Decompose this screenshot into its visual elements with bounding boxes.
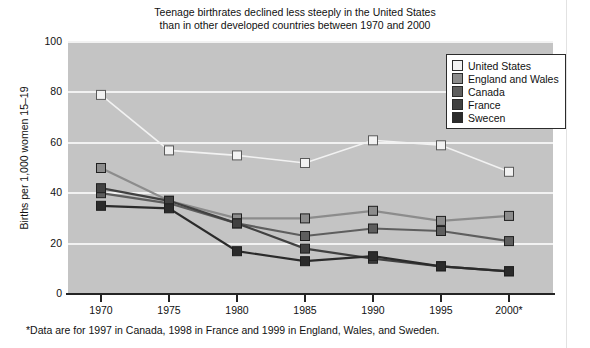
data-point-marker [301, 257, 310, 266]
data-point-marker [233, 219, 242, 228]
legend-item: England and Wales [452, 72, 559, 85]
data-point-marker [505, 267, 514, 276]
data-point-marker [165, 204, 174, 213]
data-point-marker [97, 164, 106, 173]
legend-label: England and Wales [468, 73, 559, 85]
series-layer [0, 0, 590, 348]
legend-label: Canada [468, 86, 505, 98]
data-point-marker [505, 237, 514, 246]
data-point-marker [301, 214, 310, 223]
data-point-marker [505, 211, 514, 220]
data-point-marker [301, 159, 310, 168]
data-point-marker [301, 244, 310, 253]
series-england-and-wales [97, 164, 514, 226]
data-point-marker [233, 151, 242, 160]
data-point-marker [437, 141, 446, 150]
chart-figure: Teenage birthrates declined less steeply… [0, 0, 590, 348]
data-point-marker [437, 216, 446, 225]
legend-item: Swecen [452, 111, 559, 124]
legend-label: United States [468, 60, 531, 72]
data-point-marker [97, 201, 106, 210]
data-point-marker [97, 184, 106, 193]
legend-swatch-icon [452, 73, 463, 84]
series-line [101, 168, 509, 221]
legend-item: France [452, 98, 559, 111]
data-point-marker [369, 136, 378, 145]
legend-swatch-icon [452, 86, 463, 97]
data-point-marker [97, 90, 106, 99]
legend-item: United States [452, 59, 559, 72]
data-point-marker [437, 262, 446, 271]
legend-label: Swecen [468, 112, 505, 124]
legend-swatch-icon [452, 112, 463, 123]
chart-legend: United StatesEngland and WalesCanadaFran… [446, 54, 566, 129]
legend-item: Canada [452, 85, 559, 98]
data-point-marker [437, 227, 446, 236]
scan-artifact-line [566, 0, 567, 348]
data-point-marker [165, 146, 174, 155]
data-point-marker [233, 247, 242, 256]
data-point-marker [369, 206, 378, 215]
legend-swatch-icon [452, 99, 463, 110]
data-point-marker [369, 252, 378, 261]
data-point-marker [301, 232, 310, 241]
legend-label: France [468, 99, 501, 111]
chart-footnote: *Data are for 1997 in Canada, 1998 in Fr… [26, 324, 439, 336]
data-point-marker [505, 167, 514, 176]
legend-swatch-icon [452, 60, 463, 71]
data-point-marker [369, 224, 378, 233]
